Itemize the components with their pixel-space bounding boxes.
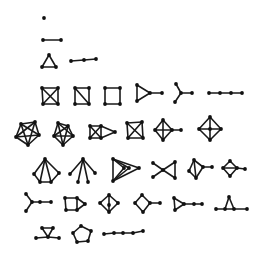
graph-node — [56, 121, 60, 125]
graph-node — [229, 91, 233, 95]
graph-node — [41, 102, 45, 106]
graph-node — [46, 235, 50, 239]
graph-node — [37, 133, 41, 137]
graph-node — [75, 208, 79, 212]
graph-node — [121, 231, 125, 235]
graph-node — [187, 169, 191, 173]
graph-node — [201, 165, 205, 169]
graph-node — [148, 91, 152, 95]
graph-node — [59, 38, 63, 42]
graph-node — [235, 166, 239, 170]
graph-node — [240, 91, 244, 95]
graph-single-vertex — [42, 16, 46, 20]
graph-edge — [142, 122, 143, 138]
graph-edge — [127, 122, 142, 123]
graph-node — [63, 196, 67, 200]
graph-node — [153, 128, 157, 132]
graph-node — [83, 202, 87, 206]
graph-node — [40, 65, 44, 69]
graph-node — [133, 201, 137, 205]
graph-node — [172, 196, 176, 200]
graph-node — [192, 158, 196, 162]
graph-node — [174, 82, 178, 86]
graph-node — [32, 172, 36, 176]
graph-node — [86, 239, 90, 243]
graph-node — [107, 210, 111, 214]
graph-node — [227, 195, 231, 199]
graph-node — [81, 157, 85, 161]
graph-node — [137, 166, 141, 170]
graph-node — [245, 207, 249, 211]
graph-node — [125, 121, 129, 125]
graph-node — [89, 229, 93, 233]
graph-node — [33, 120, 37, 124]
graph-node — [79, 224, 83, 228]
graph-node — [82, 58, 86, 62]
graph-node — [71, 231, 75, 235]
graph-node — [161, 138, 165, 142]
graph-node — [173, 100, 177, 104]
graph-node — [223, 207, 227, 211]
graph-node — [208, 127, 212, 131]
graph-node — [107, 193, 111, 197]
graph-node — [49, 180, 53, 184]
graph-node — [99, 124, 103, 128]
graph-node — [73, 86, 77, 90]
graph-node — [140, 193, 144, 197]
graph-node — [218, 91, 222, 95]
graph-node — [112, 231, 116, 235]
graph-node — [41, 38, 45, 42]
graph-node — [38, 200, 42, 204]
graph-node — [173, 208, 177, 212]
graph-node — [161, 168, 165, 172]
graph-node — [19, 122, 23, 126]
graph-node — [161, 118, 165, 122]
graph-node — [151, 161, 155, 165]
graph-node — [68, 172, 72, 176]
graph-node — [194, 176, 198, 180]
graph-node — [57, 171, 61, 175]
graph-node — [228, 174, 232, 178]
graph-node — [221, 166, 225, 170]
graph-node — [40, 86, 44, 90]
graph-node — [113, 130, 117, 134]
graph-node — [151, 175, 155, 179]
graph-node — [192, 202, 196, 206]
graph-node — [88, 136, 92, 140]
graph-node — [232, 207, 236, 211]
graph-node — [208, 115, 212, 119]
graph-node — [51, 226, 55, 230]
graph-node — [24, 209, 28, 213]
graph-catalogue-canvas — [0, 0, 261, 258]
graph-node — [71, 134, 75, 138]
graph-node — [103, 102, 107, 106]
graph-node — [102, 232, 106, 236]
graph-node — [47, 53, 51, 57]
graph-node — [111, 179, 115, 183]
graph-node — [219, 127, 223, 131]
graph-node — [34, 236, 38, 240]
graph-node — [56, 102, 60, 106]
graph-node — [140, 120, 144, 124]
graph-node — [179, 91, 183, 95]
graph-node — [173, 176, 177, 180]
graph-node — [197, 127, 201, 131]
graph-node — [160, 91, 164, 95]
graph-node — [69, 59, 73, 63]
graph-node — [158, 201, 162, 205]
graph-node — [141, 136, 145, 140]
graph-edge — [42, 88, 43, 104]
graph-node — [141, 229, 145, 233]
graph-node — [30, 200, 34, 204]
graph-node — [127, 166, 131, 170]
graph-node — [179, 128, 183, 132]
graph-node — [24, 192, 28, 196]
graph-node — [52, 134, 56, 138]
graph-node — [94, 57, 98, 61]
graph-node — [93, 171, 97, 175]
graph-node — [61, 143, 65, 147]
graph-node — [57, 236, 61, 240]
graph-node — [214, 207, 218, 211]
graph-node — [49, 200, 53, 204]
graph-node — [135, 99, 139, 103]
